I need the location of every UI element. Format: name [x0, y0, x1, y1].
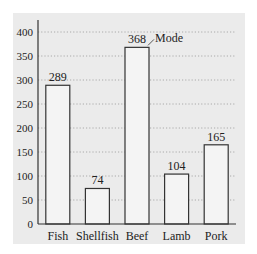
x-tick-label: Beef	[126, 229, 149, 243]
data-label: 74	[91, 173, 103, 187]
bar-fish	[46, 85, 70, 224]
y-tick-label: 50	[22, 194, 34, 206]
x-tick-label: Shellfish	[76, 229, 119, 243]
annotation-text: Mode	[155, 31, 183, 45]
x-tick-label: Pork	[205, 229, 228, 243]
x-tick-label: Lamb	[163, 229, 191, 243]
y-tick-label: 350	[17, 50, 34, 62]
data-label: 289	[49, 70, 67, 84]
y-tick-label: 250	[17, 98, 34, 110]
y-tick-label: 0	[28, 218, 34, 230]
bar-pork	[204, 145, 228, 224]
bars	[46, 47, 228, 224]
mode-annotation: Mode	[148, 31, 183, 45]
bar-beef	[125, 47, 149, 224]
data-label: 368	[128, 32, 146, 46]
x-axis-labels: FishShellfishBeefLambPork	[47, 229, 227, 243]
annotation-leader	[148, 39, 154, 45]
bar-chart: 050100150200250300350400 28974368104165 …	[0, 0, 257, 254]
y-tick-label: 400	[17, 26, 34, 38]
data-label: 165	[207, 130, 225, 144]
bar-shellfish	[85, 188, 109, 224]
data-label: 104	[168, 159, 186, 173]
y-tick-label: 100	[17, 170, 34, 182]
y-axis-ticks: 050100150200250300350400	[17, 26, 34, 230]
y-tick-label: 150	[17, 146, 34, 158]
y-tick-label: 200	[17, 122, 34, 134]
x-tick-label: Fish	[47, 229, 68, 243]
y-tick-label: 300	[17, 74, 34, 86]
bar-lamb	[165, 174, 189, 224]
